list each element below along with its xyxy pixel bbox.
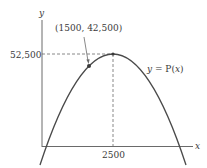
x-tick-label: 2500 [102,150,125,160]
chart: y x 52,500 2500 (1500, 42,500) y = P(x) [0,0,207,168]
curve-label-eq: = P( [155,64,175,74]
curve-label-y: y [146,64,153,74]
curve-label: y = P(x) [146,64,184,74]
marked-point [87,64,91,68]
y-tick-label: 52,500 [10,50,42,60]
point-label: (1500, 42,500) [55,23,122,33]
point-arrow [84,37,88,61]
arrowhead-icon [86,59,89,64]
vertex-point [111,52,114,55]
x-axis-label: x [195,141,200,151]
curve-label-close: ) [180,64,184,74]
y-axis-label: y [38,8,45,18]
